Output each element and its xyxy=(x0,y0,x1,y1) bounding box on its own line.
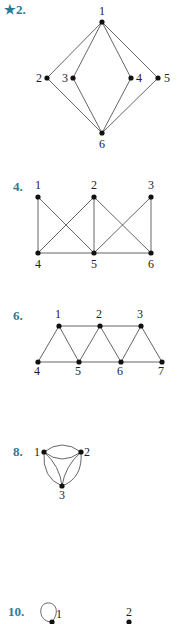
vertex-label: 2 xyxy=(91,178,97,192)
graph-exercise-8: 123 xyxy=(34,445,90,502)
edge xyxy=(102,22,158,78)
vertex-label: 6 xyxy=(148,257,154,271)
vertex xyxy=(138,323,143,328)
edge xyxy=(47,22,102,78)
vertex xyxy=(148,250,153,255)
vertex-label: 6 xyxy=(99,137,105,151)
vertex-label: 3 xyxy=(59,488,65,502)
vertex xyxy=(148,194,153,199)
edge xyxy=(73,22,102,78)
vertex-label: 4 xyxy=(136,71,142,85)
vertex-label: 1 xyxy=(35,178,41,192)
vertex xyxy=(78,449,83,454)
graph-exercise-10: 12 xyxy=(41,603,132,624)
vertex xyxy=(128,75,133,80)
vertex xyxy=(91,194,96,199)
vertex-label: 2 xyxy=(36,71,42,85)
vertex xyxy=(155,75,160,80)
edge xyxy=(79,326,100,362)
vertex xyxy=(41,449,46,454)
vertex xyxy=(35,250,40,255)
vertex-label: 7 xyxy=(158,364,164,378)
vertex xyxy=(126,619,131,624)
vertex-label: 3 xyxy=(62,71,68,85)
vertex xyxy=(99,19,104,24)
vertex-label: 2 xyxy=(84,445,90,459)
loop-edge xyxy=(41,603,57,622)
vertex-label: 5 xyxy=(75,364,81,378)
edge xyxy=(38,326,59,362)
vertex-label: 3 xyxy=(148,178,154,192)
vertex-label: 1 xyxy=(56,607,62,621)
vertex-label: 1 xyxy=(34,445,40,459)
graph-exercise-4: 123456 xyxy=(35,178,154,271)
graph-exercise-6: 1234567 xyxy=(34,307,165,378)
edge xyxy=(141,326,162,362)
vertex xyxy=(56,323,61,328)
edge xyxy=(121,326,141,362)
vertex-label: 6 xyxy=(117,364,123,378)
graph-figures: 123456123456123456712312 xyxy=(0,0,191,624)
vertex-label: 2 xyxy=(126,605,132,619)
vertex xyxy=(44,75,49,80)
edge xyxy=(73,78,102,133)
vertex-label: 4 xyxy=(34,364,40,378)
vertex-label: 1 xyxy=(99,4,105,18)
edge xyxy=(102,78,131,133)
edge xyxy=(102,22,131,78)
edge xyxy=(44,445,81,452)
vertex-label: 5 xyxy=(91,257,97,271)
vertex-label: 2 xyxy=(96,307,102,321)
vertex-label: 5 xyxy=(164,71,170,85)
vertex xyxy=(70,75,75,80)
vertex xyxy=(99,130,104,135)
graph-exercise-2: 123456 xyxy=(36,4,170,151)
vertex xyxy=(35,194,40,199)
edge xyxy=(102,78,158,133)
vertex xyxy=(91,250,96,255)
vertex-label: 3 xyxy=(137,307,143,321)
vertex-label: 4 xyxy=(35,257,41,271)
vertex xyxy=(97,323,102,328)
edge xyxy=(47,78,102,133)
vertex-label: 1 xyxy=(55,307,61,321)
edge xyxy=(100,326,121,362)
edge xyxy=(59,326,79,362)
